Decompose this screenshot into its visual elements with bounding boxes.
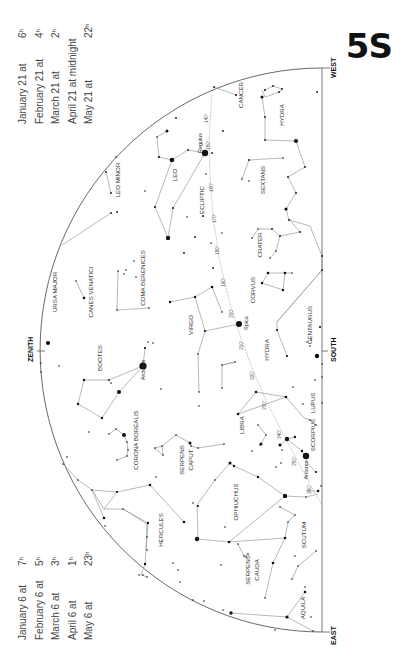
ecliptic-degree-label: 140° [204,113,209,123]
time-hour: 5h [34,557,45,566]
time-date: March 6 at [50,593,61,640]
time-hour: 2h [50,29,61,38]
star-spica [236,321,242,327]
constellation-label: LUPUS [309,393,316,414]
ecliptic-degree-label: 240° [277,429,282,439]
constellation-label: CANES VENATICI [87,266,94,317]
times-table-top: January 21 at6hFebruary 21 at4hMarch 21 … [17,24,94,124]
star-name-label: Arcturus [140,360,146,381]
east-label: EAST [330,626,337,645]
ecliptic-degree-label: 210° [239,340,244,350]
constellation-label: LEO [171,169,178,182]
constellation-label: CORONA BOREALIS [132,410,139,470]
constellation-label: HYDRA [278,103,285,126]
constellation-label: SEXTANS [259,166,266,194]
star-name-label: Spica [243,315,249,330]
constellation-label: CORVUS [249,277,256,303]
constellation-label: VIRGO [187,315,194,335]
constellation-label: URSA MAJOR [51,271,58,312]
time-hour: 22h [83,24,94,38]
constellation-label: CAPUT [187,449,194,470]
time-date: May 6 at [83,601,94,640]
ecliptic-degree-label: 150° [206,140,211,150]
ecliptic-degree-label: 190° [221,277,226,287]
constellation-label: HYDRA [263,338,270,361]
time-hour: 1h [67,557,78,566]
time-date: January 21 at [17,63,28,124]
star-name-label: Antares [303,460,309,479]
time-hour: 7h [17,557,28,566]
time-hour: 6h [17,29,28,38]
sky-arc [40,68,322,632]
time-date: May 21 at [83,80,94,124]
south-label: SOUTH [330,338,337,363]
star-labels: RegulusSpicaArcturusAntares [140,133,309,480]
ecliptic-degree-label: 230° [262,400,267,410]
constellation-label: SCORPIUS [309,419,316,451]
constellation-label: HERCULES [157,513,164,547]
time-date: March 21 at [50,71,61,124]
west-label: WEST [330,57,337,78]
constellation-label: CAUDA [253,558,260,581]
constellation-label: ECLIPTIC [198,186,205,214]
time-date: February 21 at [34,59,45,124]
constellation-label: CANCER [237,81,244,108]
ecliptic-degree-label: 180° [215,245,220,255]
time-date: January 6 at [17,585,28,640]
ecliptic-degree-label: 260° [307,484,312,494]
constellation-label: SCUTUM [300,522,307,548]
constellation-label: SERPENS [244,555,251,585]
zenith-label: ZENITH [27,337,34,362]
ecliptic-degree-label: 220° [250,370,255,380]
constellation-label: LIBRA [238,415,245,434]
constellation-label: SERPENS [178,445,185,475]
ecliptic-degree-label: 250° [292,456,297,466]
constellation-label: COMA BERENICES [139,250,146,306]
constellation-label: CRATER [256,232,263,258]
star-antares [303,453,309,459]
time-hour: 3h [50,557,61,566]
time-date: April 6 at [67,600,78,640]
times-table-bottom: January 6 at7hFebruary 6 at5hMarch 6 at3… [17,552,94,640]
star-chart: WEST EAST SOUTH ZENITH [0,0,412,657]
time-hour: 23h [83,552,94,566]
constellation-label: CENTAURUS [306,306,313,344]
constellation-label: OPHIUCHUS [232,483,239,520]
constellation-label: AQUILA [299,596,306,620]
time-date: February 6 at [34,580,45,640]
constellation-label: LEO MINOR [114,162,121,197]
stars [40,85,323,632]
time-hour: 4h [34,29,45,38]
direction-labels: WEST EAST SOUTH ZENITH [27,57,337,645]
ecliptic-line [209,95,322,505]
ecliptic-degree-label: 170° [212,213,217,223]
star-name-label: Regulus [197,133,203,153]
ecliptic-degree-label: 160° [209,182,214,192]
constellation-label: BOOTES [96,345,103,371]
ecliptic-degree-label: 200° [229,308,234,318]
time-date: April 21 at midnight [67,38,78,124]
